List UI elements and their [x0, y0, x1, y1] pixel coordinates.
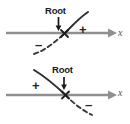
- positive-sign-bottom: +: [32, 79, 40, 92]
- root-sign-change-diagram: Root + – x Root: [0, 0, 130, 124]
- root-pointer-arrow-bottom: [61, 77, 67, 90]
- positive-sign-top: +: [79, 23, 87, 36]
- root-pointer-arrow-top: [56, 17, 62, 31]
- x-axis-label-bottom: x: [118, 88, 122, 98]
- negative-sign-bottom: –: [85, 98, 92, 111]
- diagram-panel-top: Root + – x: [0, 0, 130, 62]
- x-axis-label-top: x: [118, 28, 122, 38]
- diagram-panel-bottom: Root + – x: [0, 60, 130, 122]
- root-label-bottom: Root: [52, 65, 73, 75]
- root-label-top: Root: [45, 6, 66, 16]
- negative-sign-top: –: [35, 38, 42, 51]
